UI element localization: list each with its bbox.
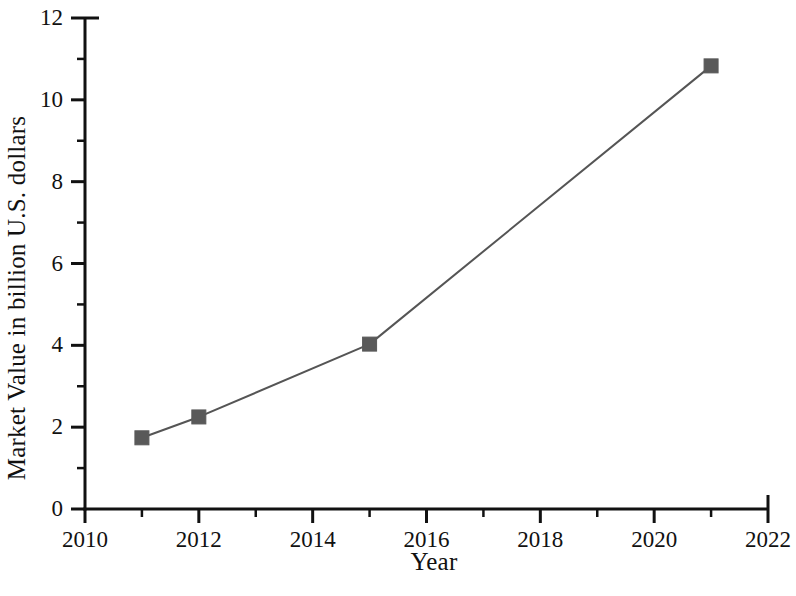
y-axis-ticks [71, 18, 85, 509]
x-axis-ticks [85, 509, 768, 523]
chart-plot-area [0, 0, 796, 596]
data-series-markers [135, 59, 718, 445]
chart-container: 2010201220142016201820202022 024681012 Y… [0, 0, 796, 596]
axis-lines [84, 18, 769, 511]
data-series-line [142, 66, 711, 438]
y-axis-title: Market Value in billion U.S. dollars [0, 0, 34, 596]
x-axis-title: Year [0, 548, 796, 576]
